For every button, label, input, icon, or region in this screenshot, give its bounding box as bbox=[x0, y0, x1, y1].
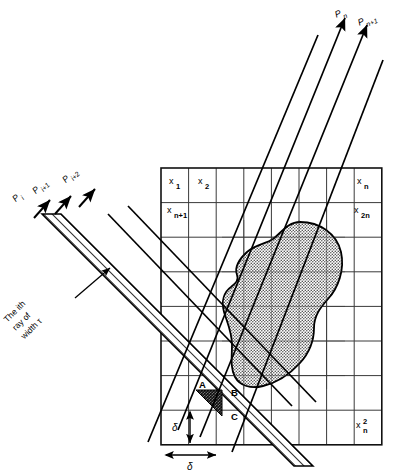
cell-label-xn1: x bbox=[167, 205, 172, 215]
cell-label-xn: x bbox=[357, 176, 362, 186]
cell-label-x2: x bbox=[198, 176, 203, 186]
cell-label-xn2-sub: n bbox=[363, 426, 368, 435]
cell-label-xn2-sup: 2 bbox=[363, 417, 367, 426]
figure-canvas: x 1 x 2 x n x n+1 x 2n x 2 n P n P n+1 P… bbox=[0, 0, 394, 473]
background bbox=[0, 0, 394, 473]
cell-label-x2-sub: 2 bbox=[205, 182, 209, 191]
cell-label-x1: x bbox=[169, 176, 174, 186]
cell-label-x2n-sub: 2n bbox=[361, 211, 370, 220]
cell-label-xn1-sub: n+1 bbox=[174, 211, 187, 220]
cell-label-x2n: x bbox=[354, 205, 359, 215]
label-B: B bbox=[231, 387, 238, 398]
cell-label-x1-sub: 1 bbox=[176, 182, 180, 191]
delta-horizontal-label: δ bbox=[187, 461, 193, 472]
label-A: A bbox=[199, 379, 206, 390]
label-C: C bbox=[231, 411, 238, 422]
cell-label-xn2: x bbox=[356, 420, 361, 430]
cell-label-xn-sub: n bbox=[364, 182, 369, 191]
delta-vertical-label: δ bbox=[172, 422, 178, 433]
